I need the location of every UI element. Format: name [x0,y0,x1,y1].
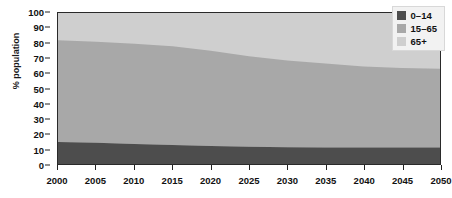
x-tick-label: 2030 [277,175,298,186]
x-axis-ticks: 2000200520102015202020252030203520402045… [57,165,441,198]
x-tick-label: 2025 [238,175,259,186]
y-tick-mark [45,103,50,104]
legend-label: 15–65 [411,23,437,34]
x-tick-label: 2020 [200,175,221,186]
y-tick-label: 30 [33,114,44,125]
legend-swatch-icon [397,37,406,46]
y-tick-mark [45,42,50,43]
y-tick-label: 80 [33,37,44,48]
y-tick-mark [45,12,50,13]
y-tick-label: 50 [33,83,44,94]
y-tick-mark [45,88,50,89]
y-tick-mark [45,57,50,58]
y-tick-label: 10 [33,144,44,155]
x-tick-label: 2040 [354,175,375,186]
legend-item[interactable]: 0–14 [397,10,437,21]
legend-label: 0–14 [411,10,432,21]
y-tick-label: 40 [33,98,44,109]
x-tick-label: 2010 [123,175,144,186]
x-tick-mark [172,165,173,170]
x-tick-mark [57,165,58,170]
x-tick-mark [95,165,96,170]
y-tick-label: 90 [33,22,44,33]
x-tick-mark [249,165,250,170]
legend-item[interactable]: 65+ [397,36,437,47]
y-tick-mark [45,27,50,28]
x-tick-label: 2005 [85,175,106,186]
x-tick-mark [211,165,212,170]
x-tick-mark [287,165,288,170]
y-tick-mark [45,73,50,74]
x-tick-label: 2050 [430,175,451,186]
legend-swatch-icon [397,11,406,20]
y-tick-mark [45,119,50,120]
x-tick-label: 2045 [392,175,413,186]
legend-swatch-icon [397,24,406,33]
x-tick-label: 2000 [46,175,67,186]
x-tick-mark [403,165,404,170]
y-tick-label: 100 [28,7,44,18]
y-tick-mark [45,149,50,150]
x-tick-label: 2035 [315,175,336,186]
legend-item[interactable]: 15–65 [397,23,437,34]
plot-area [57,12,441,165]
legend-label: 65+ [411,36,427,47]
x-tick-mark [441,165,442,170]
y-axis-ticks: 0102030405060708090100 [0,12,52,165]
y-tick-label: 60 [33,68,44,79]
y-tick-label: 0 [39,160,44,171]
y-tick-mark [45,165,50,166]
x-tick-mark [326,165,327,170]
y-tick-label: 20 [33,129,44,140]
area-series-svg [58,13,440,164]
x-tick-mark [364,165,365,170]
y-tick-mark [45,134,50,135]
chart-legend: 0–1415–6565+ [392,6,445,51]
x-tick-mark [134,165,135,170]
y-tick-label: 70 [33,52,44,63]
x-tick-label: 2015 [162,175,183,186]
